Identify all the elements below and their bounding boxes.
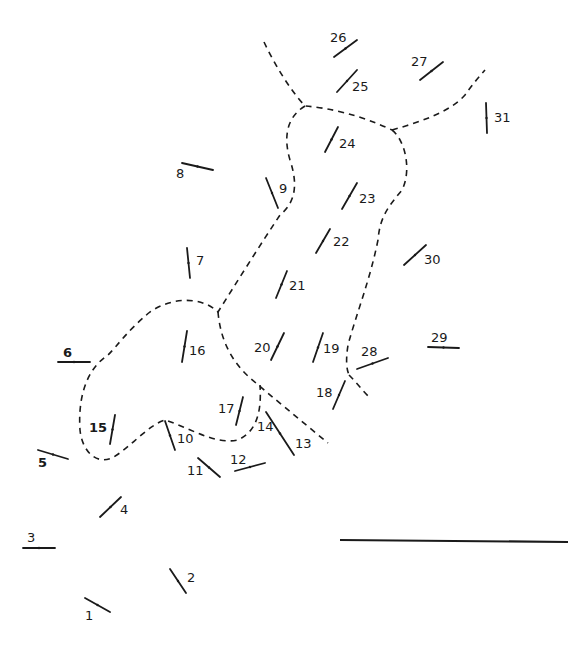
- station-label-17: 17: [218, 401, 235, 416]
- dip-tick-28: [371, 362, 373, 364]
- station-label-27: 27: [411, 54, 428, 69]
- station-label-14: 14: [257, 419, 274, 434]
- dip-tick-12: [249, 466, 251, 468]
- boundary-south-cross-b: [349, 375, 370, 398]
- station-label-24: 24: [339, 136, 356, 151]
- station-label-28: 28: [361, 344, 378, 359]
- dip-tick-19: [317, 346, 319, 348]
- station-label-5: 5: [38, 455, 47, 470]
- station-label-15: 15: [89, 420, 107, 435]
- station-label-29: 29: [431, 330, 448, 345]
- dip-tick-3: [38, 547, 40, 549]
- dip-tick-27: [430, 70, 432, 72]
- dip-tick-30: [414, 254, 416, 256]
- dip-tick-20: [276, 345, 278, 347]
- station-label-12: 12: [230, 452, 247, 467]
- dip-tick-7: [187, 262, 189, 264]
- station-label-22: 22: [333, 234, 350, 249]
- station-label-26: 26: [330, 30, 347, 45]
- dip-tick-26: [344, 47, 346, 49]
- station-label-8: 8: [176, 166, 184, 181]
- dip-tick-8: [196, 165, 198, 167]
- dip-tick-24: [330, 138, 332, 140]
- station-label-23: 23: [359, 191, 376, 206]
- station-label-21: 21: [289, 278, 306, 293]
- dip-tick-17: [238, 410, 240, 412]
- dip-tick-22: [322, 240, 324, 242]
- boundary-north-west-line: [264, 42, 392, 130]
- station-label-31: 31: [494, 110, 511, 125]
- dip-tick-31: [485, 117, 487, 119]
- station-label-30: 30: [424, 252, 441, 267]
- station-label-10: 10: [177, 431, 194, 446]
- station-label-20: 20: [254, 340, 271, 355]
- station-label-16: 16: [189, 343, 206, 358]
- dip-tick-25: [346, 80, 348, 82]
- dip-tick-10: [169, 434, 171, 436]
- station-label-2: 2: [187, 570, 195, 585]
- dip-tick-5: [52, 453, 54, 455]
- station-label-18: 18: [316, 385, 333, 400]
- scale-bar: [340, 540, 568, 542]
- dip-tick-13: [279, 432, 281, 434]
- station-label-19: 19: [323, 341, 340, 356]
- boundary-north-east-line: [392, 70, 485, 130]
- station-label-9: 9: [279, 181, 287, 196]
- station-label-7: 7: [196, 253, 204, 268]
- dip-tick-29: [442, 346, 444, 348]
- dip-tick-2: [177, 580, 179, 582]
- dip-tick-23: [348, 195, 350, 197]
- station-label-3: 3: [27, 530, 35, 545]
- dip-tick-16: [183, 345, 185, 347]
- dip-tick-1: [96, 604, 98, 606]
- station-label-4: 4: [120, 502, 128, 517]
- dip-tick-15: [111, 428, 113, 430]
- dip-tick-4: [109, 506, 111, 508]
- dip-tick-11: [208, 466, 210, 468]
- dip-tick-21: [280, 283, 282, 285]
- boundary-main-body: [80, 106, 305, 460]
- station-map: 1234567891011121314151617181920212223242…: [0, 0, 582, 647]
- strike-marks: [23, 40, 488, 612]
- station-label-11: 11: [187, 463, 204, 478]
- boundary-east-line: [347, 130, 407, 375]
- dip-tick-9: [271, 192, 273, 194]
- dashed-boundary-lines: [80, 42, 485, 460]
- dip-tick-6: [73, 361, 75, 363]
- station-label-25: 25: [352, 79, 369, 94]
- station-label-13: 13: [295, 436, 312, 451]
- station-label-6: 6: [63, 345, 72, 360]
- station-label-1: 1: [85, 608, 93, 623]
- station-labels: 1234567891011121314151617181920212223242…: [27, 30, 511, 623]
- dip-tick-18: [338, 394, 340, 396]
